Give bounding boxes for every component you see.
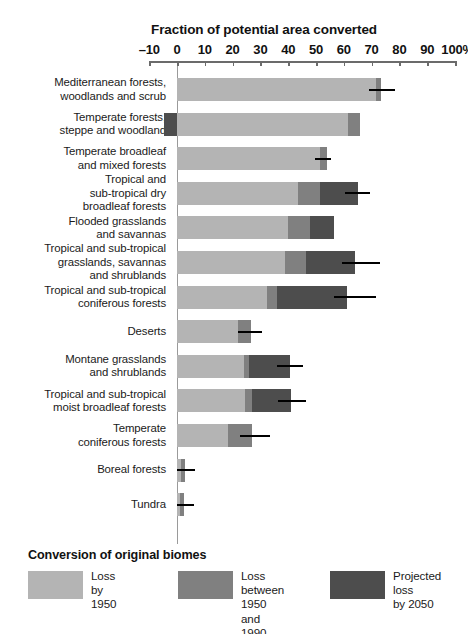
bar-segment-loss-by-1950 [177, 78, 376, 101]
bar-row: Flooded grasslands and savannas [0, 216, 468, 239]
projection-marker-line [238, 331, 262, 333]
bar-row: Boreal forests [0, 459, 468, 482]
projection-marker-line [277, 365, 303, 367]
bar-row: Deserts [0, 320, 468, 343]
bar-row: Tropical and sub-tropical dry broadleaf … [0, 182, 468, 205]
bar-segment-loss-by-1950 [177, 424, 228, 447]
chart-title: Fraction of potential area converted [0, 22, 468, 37]
category-label: Mediterranean forests, woodlands and scr… [0, 76, 166, 103]
bar-segment-loss-1950-1990 [267, 286, 277, 309]
bar-segment-loss-by-1950 [177, 355, 244, 378]
x-tick-label: 60 [337, 42, 351, 57]
bar-row: Tundra [0, 493, 468, 516]
category-label: Tropical and sub-tropical coniferous for… [0, 284, 166, 311]
category-label: Tropical and sub-tropical moist broadlea… [0, 388, 166, 415]
bar-row: Montane grasslands and shrublands [0, 355, 468, 378]
x-tick-label: 70 [365, 42, 379, 57]
category-label: Temperate broadleaf and mixed forests [0, 145, 166, 172]
x-tick-label: 0 [173, 42, 180, 57]
bar-segment-loss-by-1950 [177, 286, 267, 309]
category-label: Boreal forests [0, 463, 166, 476]
bar-segment-loss-by-1950 [177, 182, 298, 205]
projection-marker-line [369, 89, 395, 91]
bar-segment-loss-1950-1990 [348, 113, 361, 136]
legend-title: Conversion of original biomes [28, 548, 206, 562]
projection-marker-line [345, 192, 370, 194]
bar-row: Mediterranean forests, woodlands and scr… [0, 78, 468, 101]
bar-segment-loss-by-1950 [177, 320, 238, 343]
projection-marker-line [278, 400, 306, 402]
bar-row: Temperate forests, steppe and woodland [0, 113, 468, 136]
legend-swatch [330, 571, 385, 599]
bar-row: Temperate coniferous forests [0, 424, 468, 447]
legend-swatch [178, 571, 233, 599]
category-label: Flooded grasslands and savannas [0, 215, 166, 242]
projection-marker-line [334, 296, 376, 298]
projection-marker-line [177, 504, 194, 506]
projection-marker-line [315, 158, 332, 160]
x-tick-label: 10 [198, 42, 212, 57]
bar-segment-loss-1950-1990 [285, 251, 306, 274]
bar-segment-loss-by-1950 [177, 147, 320, 170]
bar-segment-projected-2050 [310, 216, 334, 239]
bar-segment-loss-1950-1990 [298, 182, 320, 205]
legend-swatch [28, 571, 83, 599]
legend-label: Projected loss by 2050 [393, 569, 441, 612]
projection-marker-line [342, 262, 380, 264]
projection-marker-line [177, 469, 195, 471]
category-label: Deserts [0, 325, 166, 338]
x-tick-label: –10 [139, 42, 160, 57]
bar-segment-loss-1950-1990 [245, 389, 252, 412]
x-tick-label: 80 [392, 42, 406, 57]
bar-row: Tropical and sub-tropical coniferous for… [0, 286, 468, 309]
category-label: Tropical and sub-tropical grasslands, sa… [0, 242, 166, 282]
bar-segment-negative [164, 113, 177, 136]
category-label: Temperate forests, steppe and woodland [0, 111, 166, 138]
chart-root: Fraction of potential area converted –10… [0, 0, 468, 634]
x-tick-label: 90 [420, 42, 434, 57]
x-tick-label: 50 [309, 42, 323, 57]
bar-row: Temperate broadleaf and mixed forests [0, 147, 468, 170]
legend-label: Loss between 1950 and 1990 [241, 569, 284, 634]
bar-segment-loss-1950-1990 [288, 216, 310, 239]
bar-row: Tropical and sub-tropical moist broadlea… [0, 389, 468, 412]
legend-label: Loss by 1950 [91, 569, 116, 612]
bar-segment-loss-by-1950 [177, 251, 285, 274]
category-label: Tundra [0, 498, 166, 511]
projection-marker-line [240, 435, 271, 437]
bar-row: Tropical and sub-tropical grasslands, sa… [0, 251, 468, 274]
x-tick-label: 20 [226, 42, 240, 57]
plot-area: Mediterranean forests, woodlands and scr… [0, 66, 468, 546]
bar-segment-loss-by-1950 [177, 389, 245, 412]
category-label: Temperate coniferous forests [0, 422, 166, 449]
bar-segment-loss-by-1950 [177, 113, 348, 136]
bar-segment-loss-by-1950 [177, 216, 288, 239]
x-tick-label: 30 [253, 42, 267, 57]
category-label: Tropical and sub-tropical dry broadleaf … [0, 173, 166, 213]
legend: Conversion of original biomes Loss by 19… [0, 548, 468, 634]
category-label: Montane grasslands and shrublands [0, 353, 166, 380]
x-tick-label: 40 [281, 42, 295, 57]
x-tick-label: 100% [441, 42, 468, 57]
x-axis-line [149, 61, 455, 63]
